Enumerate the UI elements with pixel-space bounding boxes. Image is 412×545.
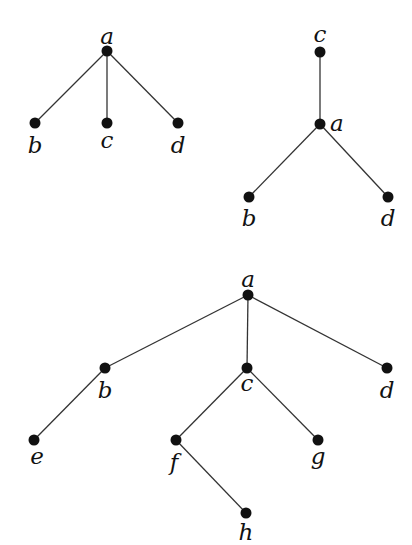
tree2-node-d — [383, 192, 394, 203]
tree2-node-a — [315, 119, 326, 130]
tree2-label-d: d — [381, 205, 396, 231]
tree1-edge-a-b — [35, 51, 107, 123]
tree2-label-c: c — [314, 21, 327, 47]
tree2-label-b: b — [242, 205, 257, 231]
tree2-edge-a-b — [249, 124, 320, 197]
tree3-node-b — [100, 363, 111, 374]
tree3-label-b: b — [98, 377, 113, 403]
tree1-node-b — [30, 118, 41, 129]
tree3-label-f: f — [168, 449, 182, 475]
tree3-label-c: c — [241, 370, 254, 396]
tree3-label-h: h — [239, 519, 254, 545]
tree1-label-d: d — [171, 132, 186, 158]
tree3-node-f — [171, 435, 182, 446]
tree2-label-a: a — [330, 110, 344, 136]
tree1-label-b: b — [28, 132, 43, 158]
tree1-label-a: a — [100, 23, 114, 49]
tree1-label-c: c — [101, 127, 114, 153]
tree3-edge-a-d — [248, 295, 387, 368]
tree1-node-d — [173, 118, 184, 129]
tree3-edge-a-c — [247, 295, 248, 368]
tree2-node-c — [315, 47, 326, 58]
tree-diagram: abcdcabdabcdefgh — [0, 0, 412, 545]
tree2-node-b — [244, 192, 255, 203]
tree3-edge-c-g — [247, 368, 318, 440]
tree3-node-h — [241, 508, 252, 519]
tree3-node-d — [382, 363, 393, 374]
tree3-label-e: e — [30, 443, 44, 469]
tree3-label-d: d — [380, 377, 395, 403]
tree3-edge-a-b — [105, 295, 248, 368]
tree3-edge-f-h — [176, 440, 246, 513]
tree3-label-g: g — [311, 443, 326, 469]
labels-layer: abcdcabdabcdefgh — [28, 21, 396, 545]
tree3-label-a: a — [241, 266, 255, 292]
tree1-edge-a-d — [107, 51, 178, 123]
tree3-edge-c-f — [176, 368, 247, 440]
tree3-edge-b-e — [34, 368, 105, 440]
